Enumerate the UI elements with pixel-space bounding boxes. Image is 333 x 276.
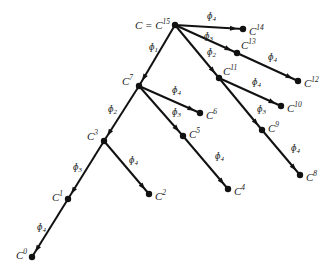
edge-label: ɸ4	[37, 221, 46, 234]
edge-label: ɸ4	[268, 51, 277, 64]
edge-label: ɸ4	[291, 142, 300, 155]
arrowhead-icon	[268, 98, 275, 103]
edge-label: ɸ4	[215, 150, 224, 163]
node-C13	[234, 50, 240, 56]
node-C9	[259, 127, 265, 133]
node-C6	[197, 110, 203, 116]
edge-label: ɸ3	[257, 103, 266, 116]
edge-label: ɸ4	[129, 154, 138, 167]
arrowhead-icon	[285, 73, 292, 78]
edge-label: ɸ1	[149, 41, 158, 54]
node-C2	[146, 191, 152, 197]
node-label-C14: C14	[249, 23, 264, 37]
nodes-layer	[29, 22, 303, 260]
edge-label: ɸ3	[204, 30, 213, 43]
node-C15	[172, 22, 178, 28]
node-C4	[225, 186, 231, 192]
node-label-C8: C8	[306, 169, 317, 183]
node-label-C0: C0	[16, 247, 27, 261]
node-C0	[29, 254, 35, 260]
edge-label: ɸ4	[172, 84, 181, 97]
tree-canvas: ɸ4ɸ3ɸ4ɸ2ɸ4ɸ3ɸ4ɸ1ɸ4ɸ3ɸ4ɸ2ɸ4ɸ3ɸ4 C = C15C1…	[0, 0, 333, 276]
node-C8	[297, 172, 303, 178]
edge-label: ɸ2	[108, 103, 117, 116]
node-label-C9: C9	[268, 120, 279, 134]
edge-label: ɸ4	[252, 76, 261, 89]
node-label-C6: C6	[206, 107, 217, 121]
node-label-C2: C2	[155, 188, 166, 202]
arrowhead-icon	[142, 74, 148, 81]
node-labels-layer: C = C15C14C13C12C11C10C9C8C7C6C5C4C3C2C1…	[16, 17, 319, 261]
edge-labels-layer: ɸ4ɸ3ɸ4ɸ2ɸ4ɸ3ɸ4ɸ1ɸ4ɸ3ɸ4ɸ2ɸ4ɸ3ɸ4	[37, 10, 300, 234]
node-label-C4: C4	[234, 183, 245, 197]
arrowhead-icon	[187, 105, 194, 110]
edges-layer	[32, 25, 300, 257]
edge-label: ɸ2	[207, 46, 216, 59]
node-C1	[65, 196, 71, 202]
edge-label: ɸ4	[207, 10, 216, 23]
node-label-C5: C5	[189, 126, 200, 140]
node-C14	[240, 26, 246, 32]
edge-label: ɸ3	[172, 106, 181, 119]
node-C10	[278, 103, 284, 109]
node-C7	[136, 83, 142, 89]
arrowhead-icon	[224, 45, 231, 50]
node-C5	[180, 133, 186, 139]
node-label-C7: C7	[122, 73, 133, 87]
node-label-C12: C12	[304, 75, 319, 89]
node-label-C3: C3	[87, 128, 98, 142]
node-label-C1: C1	[52, 189, 63, 203]
binomial-tree-diagram: ɸ4ɸ3ɸ4ɸ2ɸ4ɸ3ɸ4ɸ1ɸ4ɸ3ɸ4ɸ2ɸ4ɸ3ɸ4 C = C15C1…	[0, 0, 333, 276]
node-C12	[295, 78, 301, 84]
node-label-C13: C13	[241, 37, 256, 51]
node-C3	[101, 138, 107, 144]
arrowhead-icon	[230, 26, 237, 31]
node-label-C11: C11	[223, 63, 237, 77]
node-label-C15: C = C15	[135, 17, 170, 31]
node-C11	[216, 75, 222, 81]
node-label-C10: C10	[287, 100, 302, 114]
edge-label: ɸ3	[73, 161, 82, 174]
